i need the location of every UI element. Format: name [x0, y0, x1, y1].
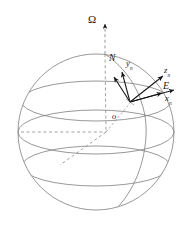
z-body-vector — [130, 76, 163, 102]
meridian-curve — [105, 54, 146, 212]
y-axis-label: yn — [126, 59, 132, 70]
x-axis-label: xn — [165, 94, 171, 105]
observer-radius — [106, 103, 130, 132]
north-vector — [114, 77, 130, 102]
y-axis-subscript: n — [130, 65, 133, 71]
origin-label: o — [112, 112, 116, 121]
oblique-radius — [60, 132, 106, 165]
lower-latitude-ellipse — [22, 146, 170, 186]
figure-canvas — [0, 0, 193, 232]
x-body-vector — [130, 93, 162, 102]
north-label: N — [109, 54, 115, 64]
omega-label: Ω — [88, 14, 96, 25]
polar-axis-interior — [105, 54, 106, 132]
east-label: E — [163, 81, 169, 91]
sphere-navigation-frame-figure: Ω N yn zn E xn o — [0, 0, 193, 232]
x-axis-subscript: n — [169, 100, 172, 106]
z-axis-subscript: n — [167, 72, 170, 78]
z-axis-label: zn — [164, 66, 170, 77]
